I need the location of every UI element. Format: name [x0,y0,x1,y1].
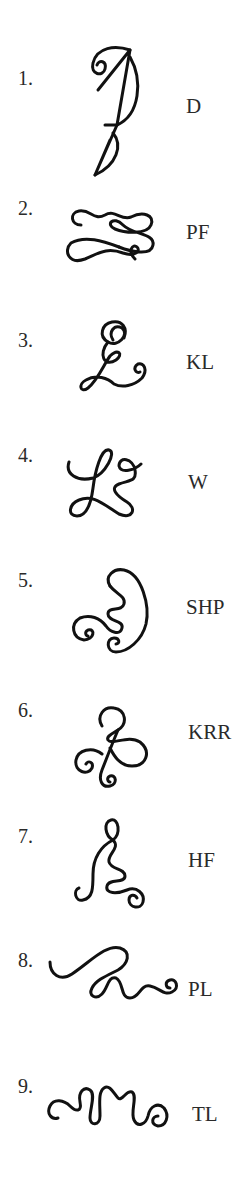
sigil-d-icon [85,45,145,180]
item-number: 6. [18,700,33,720]
sigil-tl-icon [42,1082,177,1137]
item-label: KL [186,352,214,373]
item-label: SHP [186,597,225,618]
item-label: HF [188,850,215,871]
sigil-pf-icon [63,207,158,272]
sigil-kl-icon [78,318,153,398]
item-label: D [186,96,201,117]
item-label: TL [192,1104,218,1125]
item-number: 2. [18,198,33,218]
sigil-w-icon [63,448,153,523]
item-label: KRR [188,722,231,743]
item-label: PF [186,222,209,243]
item-number: 7. [18,826,33,846]
item-label: PL [188,979,213,1000]
item-label: W [188,472,208,493]
item-number: 9. [18,1076,33,1096]
item-number: 3. [18,330,33,350]
sigil-pl-icon [46,944,181,1004]
item-number: 1. [18,68,33,88]
item-number: 5. [18,570,33,590]
sigil-hf-icon [73,818,153,913]
item-number: 4. [18,445,33,465]
item-number: 8. [18,950,33,970]
sigil-krr-icon [72,704,157,789]
sigil-shp-icon [66,566,156,658]
